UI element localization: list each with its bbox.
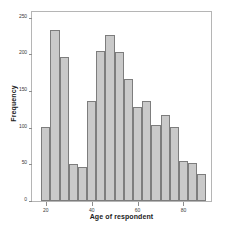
y-axis-tick: 50 xyxy=(0,164,32,165)
histogram-bar xyxy=(69,164,78,201)
histogram-bar xyxy=(124,79,133,201)
y-tick-mark xyxy=(29,128,32,129)
histogram-bar xyxy=(133,107,142,202)
y-tick-mark xyxy=(29,54,32,55)
y-tick-label: 150 xyxy=(19,86,27,92)
y-axis-tick: 200 xyxy=(0,54,32,55)
histogram-bar xyxy=(115,52,124,201)
histogram-figure: 050100150200250 20406080 Age of responde… xyxy=(0,0,232,231)
histogram-bar xyxy=(96,51,105,201)
histogram-bar xyxy=(179,161,188,201)
x-tick-mark xyxy=(183,202,184,206)
y-tick-label: 50 xyxy=(22,159,27,165)
histogram-bar xyxy=(161,115,170,201)
histogram-bars xyxy=(32,12,211,201)
y-tick-label: 250 xyxy=(19,13,27,19)
histogram-bar xyxy=(50,30,59,201)
histogram-bar xyxy=(188,163,197,201)
histogram-bar xyxy=(142,101,151,201)
x-tick-mark xyxy=(46,202,47,206)
y-tick-mark xyxy=(29,18,32,19)
histogram-bar xyxy=(41,127,50,201)
histogram-bar xyxy=(87,101,96,201)
y-axis-tick: 250 xyxy=(0,18,32,19)
y-tick-label: 100 xyxy=(19,123,27,129)
x-axis-title: Age of respondent xyxy=(31,213,212,220)
y-tick-mark xyxy=(29,91,32,92)
histogram-bar xyxy=(151,125,160,201)
histogram-bar xyxy=(170,127,179,201)
histogram-bar xyxy=(197,174,206,201)
histogram-bar xyxy=(105,35,114,201)
y-axis-title: Frequency xyxy=(10,59,17,149)
x-tick-mark xyxy=(138,202,139,206)
histogram-bar xyxy=(60,57,69,201)
x-tick-mark xyxy=(92,202,93,206)
y-tick-label: 200 xyxy=(19,49,27,55)
histogram-bar xyxy=(78,167,87,201)
y-tick-mark xyxy=(29,164,32,165)
